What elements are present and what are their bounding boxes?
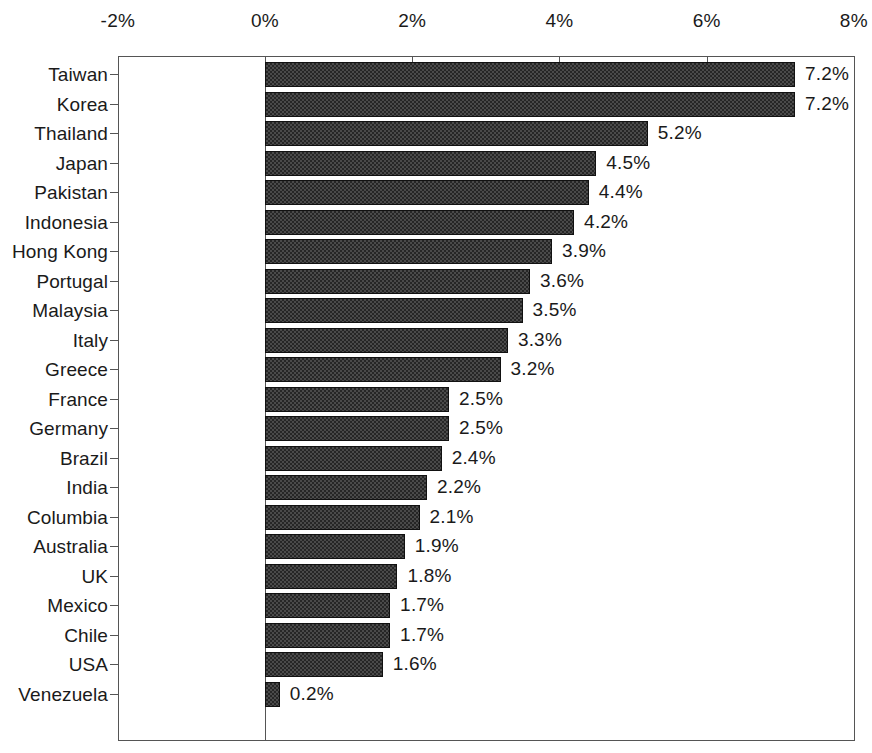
bar-value-label: 3.6%: [540, 267, 584, 297]
bar-value-label: 2.5%: [459, 414, 503, 444]
bar-row: France2.5%: [0, 385, 872, 415]
bar: [265, 387, 449, 412]
bar-value-label: 4.4%: [599, 178, 643, 208]
bar-value-label: 1.7%: [400, 621, 444, 651]
category-label: Portugal: [36, 267, 108, 297]
category-label: Venezuela: [18, 680, 108, 710]
y-axis-tick-mark: [110, 104, 119, 105]
x-axis-tick-label: 2%: [398, 11, 426, 30]
bar: [265, 298, 523, 323]
y-axis-tick-mark: [110, 517, 119, 518]
bar-row: Australia1.9%: [0, 532, 872, 562]
y-axis-tick-mark: [110, 192, 119, 193]
bar: [265, 623, 390, 648]
bar: [265, 475, 427, 500]
bar-value-label: 3.5%: [533, 296, 577, 326]
y-axis-tick-mark: [110, 310, 119, 311]
bar-value-label: 1.9%: [415, 532, 459, 562]
bar: [265, 593, 390, 618]
category-label: Italy: [73, 326, 108, 356]
bar-chart: -2%0%2%4%6%8% Taiwan7.2%Korea7.2%Thailan…: [0, 0, 872, 753]
bar: [265, 534, 405, 559]
y-axis-tick-mark: [110, 281, 119, 282]
y-axis-tick-mark: [110, 399, 119, 400]
bar-value-label: 1.8%: [407, 562, 451, 592]
y-axis-tick-mark: [110, 133, 119, 134]
bar: [265, 682, 280, 707]
category-label: Thailand: [34, 119, 108, 149]
y-axis-tick-mark: [110, 428, 119, 429]
x-axis-tick-label: 4%: [545, 11, 573, 30]
bar-row: Japan4.5%: [0, 149, 872, 179]
y-axis-tick-mark: [110, 487, 119, 488]
bar-row: Brazil2.4%: [0, 444, 872, 474]
y-axis-tick-mark: [110, 694, 119, 695]
y-axis-tick-mark: [110, 251, 119, 252]
bar-row: UK1.8%: [0, 562, 872, 592]
bar: [265, 210, 574, 235]
bar-row: Indonesia4.2%: [0, 208, 872, 238]
bar: [265, 357, 501, 382]
category-label: Korea: [57, 90, 108, 120]
bar: [265, 62, 795, 87]
bar-value-label: 2.4%: [452, 444, 496, 474]
y-axis-tick-mark: [110, 635, 119, 636]
category-label: Australia: [33, 532, 108, 562]
bar-row: Venezuela0.2%: [0, 680, 872, 710]
bar-value-label: 7.2%: [805, 90, 849, 120]
category-label: Taiwan: [48, 60, 108, 90]
bar-value-label: 4.2%: [584, 208, 628, 238]
category-label: Columbia: [27, 503, 108, 533]
bar: [265, 328, 508, 353]
bar-value-label: 3.2%: [511, 355, 555, 385]
category-label: France: [48, 385, 108, 415]
bar-row: Thailand5.2%: [0, 119, 872, 149]
bar: [265, 151, 596, 176]
y-axis-tick-mark: [110, 546, 119, 547]
bar: [265, 446, 442, 471]
bar-value-label: 3.9%: [562, 237, 606, 267]
category-label: Chile: [64, 621, 108, 651]
y-axis-tick-mark: [110, 576, 119, 577]
x-axis-tick-label: -2%: [101, 11, 135, 30]
bar: [265, 239, 552, 264]
x-axis-tick-label: 6%: [693, 11, 721, 30]
bar-row: Greece3.2%: [0, 355, 872, 385]
bar-row: Chile1.7%: [0, 621, 872, 651]
bar: [265, 505, 420, 530]
category-label: Indonesia: [25, 208, 108, 238]
category-label: India: [66, 473, 108, 503]
bar-row: India2.2%: [0, 473, 872, 503]
bar-row: Malaysia3.5%: [0, 296, 872, 326]
bar: [265, 180, 589, 205]
bar: [265, 416, 449, 441]
y-axis-tick-mark: [110, 664, 119, 665]
bar: [265, 121, 648, 146]
x-axis-tick-label: 8%: [840, 11, 868, 30]
y-axis-tick-mark: [110, 222, 119, 223]
x-axis-tick-label: 0%: [251, 11, 279, 30]
category-label: UK: [81, 562, 108, 592]
bar-value-label: 1.7%: [400, 591, 444, 621]
bar-value-label: 3.3%: [518, 326, 562, 356]
bar-row: USA1.6%: [0, 650, 872, 680]
bar-row: Korea7.2%: [0, 90, 872, 120]
bar: [265, 269, 530, 294]
category-label: Hong Kong: [12, 237, 108, 267]
bar-value-label: 2.5%: [459, 385, 503, 415]
category-label: Germany: [29, 414, 108, 444]
y-axis-tick-mark: [110, 458, 119, 459]
bar: [265, 92, 795, 117]
category-label: Greece: [45, 355, 108, 385]
bar-row: Italy3.3%: [0, 326, 872, 356]
bar-value-label: 1.6%: [393, 650, 437, 680]
bar-value-label: 0.2%: [290, 680, 334, 710]
bar-row: Hong Kong3.9%: [0, 237, 872, 267]
bar-row: Germany2.5%: [0, 414, 872, 444]
bar-row: Taiwan7.2%: [0, 60, 872, 90]
bar-row: Portugal3.6%: [0, 267, 872, 297]
y-axis-tick-mark: [110, 369, 119, 370]
y-axis-tick-mark: [110, 605, 119, 606]
y-axis-tick-mark: [110, 74, 119, 75]
bar: [265, 652, 383, 677]
